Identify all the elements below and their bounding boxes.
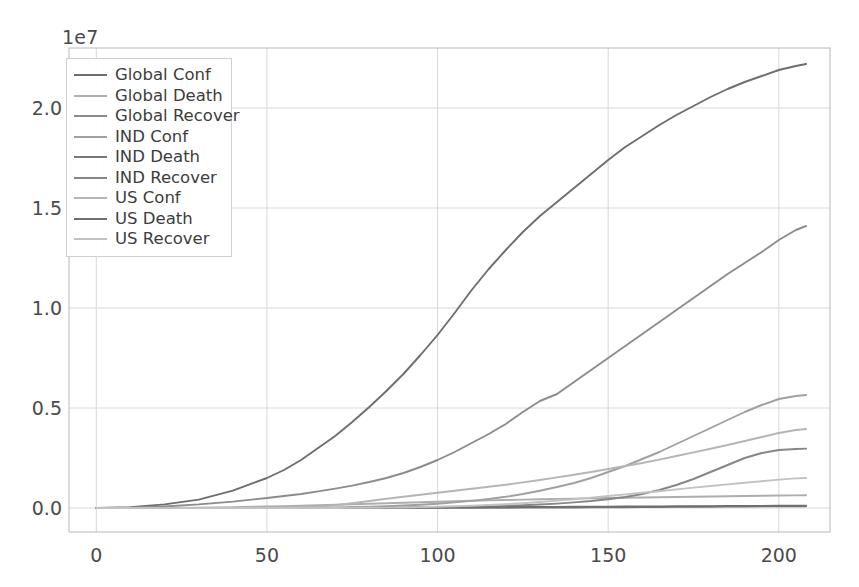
- legend-item-label: IND Conf: [115, 129, 188, 146]
- legend-item[interactable]: Global Death: [74, 86, 223, 107]
- legend-item[interactable]: Global Conf: [74, 65, 223, 86]
- legend-item[interactable]: Global Recover: [74, 106, 223, 127]
- legend-item-label: US Death: [115, 211, 193, 228]
- legend-line-swatch: [74, 177, 107, 179]
- legend-item-label: Global Death: [115, 88, 223, 105]
- legend-item-label: Global Recover: [115, 108, 240, 125]
- legend-item-label: Global Conf: [115, 67, 211, 84]
- chart-legend[interactable]: Global ConfGlobal DeathGlobal RecoverIND…: [66, 58, 232, 257]
- legend-item-label: IND Death: [115, 149, 200, 166]
- legend-item[interactable]: IND Death: [74, 147, 223, 168]
- legend-line-swatch: [74, 156, 107, 158]
- legend-line-swatch: [74, 95, 107, 97]
- legend-item-label: US Recover: [115, 231, 210, 248]
- legend-line-swatch: [74, 238, 107, 240]
- legend-line-swatch: [74, 218, 107, 220]
- legend-line-swatch: [74, 136, 107, 138]
- legend-item[interactable]: US Conf: [74, 188, 223, 209]
- chart-figure: 1e7 0.00.51.01.52.0 050100150200 Global …: [0, 0, 859, 587]
- legend-line-swatch: [74, 74, 107, 76]
- legend-line-swatch: [74, 197, 107, 199]
- legend-item-label: US Conf: [115, 190, 181, 207]
- legend-item[interactable]: US Recover: [74, 229, 223, 250]
- legend-item-label: IND Recover: [115, 170, 217, 187]
- series-line: [96, 226, 806, 508]
- legend-item[interactable]: IND Recover: [74, 168, 223, 189]
- legend-line-swatch: [74, 115, 107, 117]
- legend-item[interactable]: US Death: [74, 209, 223, 230]
- legend-item[interactable]: IND Conf: [74, 127, 223, 148]
